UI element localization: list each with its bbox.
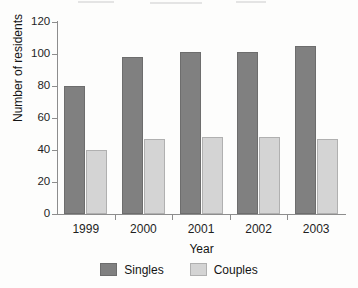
- couples-swatch-icon: [190, 263, 207, 276]
- bar-singles-2003: [295, 46, 316, 214]
- x-tick-label-2002: 2002: [229, 223, 289, 235]
- bar-couples-2000: [144, 139, 165, 214]
- bar-singles-2002: [237, 52, 258, 214]
- x-axis-title: Year: [57, 243, 346, 255]
- bar-chart-figure: 020406080100120 19992000200120022003 Num…: [0, 0, 358, 288]
- scan-artifact: [236, 1, 266, 3]
- singles-swatch-icon: [100, 263, 117, 276]
- legend-item-singles: Singles: [100, 263, 163, 276]
- scan-artifact: [78, 1, 114, 3]
- chart-legend: Singles Couples: [0, 263, 358, 276]
- y-tick-mark: [52, 214, 57, 215]
- x-tick-mark: [115, 215, 116, 220]
- y-tick-label: 20: [6, 176, 50, 188]
- bar-singles-2000: [122, 57, 143, 214]
- x-tick-label-2000: 2000: [113, 223, 173, 235]
- legend-label-singles: Singles: [124, 264, 163, 276]
- x-tick-label-2003: 2003: [286, 223, 346, 235]
- plot-area: [57, 22, 345, 214]
- y-tick-label: 0: [6, 208, 50, 220]
- legend-label-couples: Couples: [214, 264, 258, 276]
- x-tick-mark: [287, 215, 288, 220]
- x-tick-mark: [172, 215, 173, 220]
- bar-couples-2002: [259, 137, 280, 214]
- x-tick-label-2001: 2001: [171, 223, 231, 235]
- bar-couples-2003: [317, 139, 338, 214]
- scan-artifact: [150, 2, 202, 4]
- y-axis-title: Number of residents: [12, 0, 24, 148]
- x-axis-line: [57, 214, 346, 215]
- x-tick-mark: [230, 215, 231, 220]
- x-tick-label-1999: 1999: [56, 223, 116, 235]
- legend-item-couples: Couples: [190, 263, 258, 276]
- bar-singles-2001: [180, 52, 201, 214]
- bar-couples-2001: [202, 137, 223, 214]
- bar-singles-1999: [64, 86, 85, 214]
- bar-couples-1999: [86, 150, 107, 214]
